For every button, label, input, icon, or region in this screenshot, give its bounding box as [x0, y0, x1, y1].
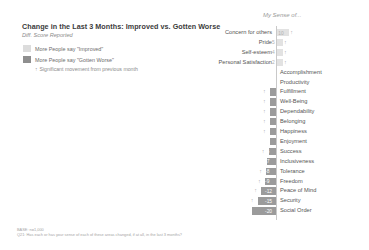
- significance-marker-icon: ↑: [263, 98, 266, 105]
- significance-marker-icon: ↑: [259, 168, 262, 175]
- bar-row: -15↑Security: [0, 196, 369, 205]
- bar-row: 10↑Concern for others: [0, 28, 369, 37]
- category-label: Security: [280, 197, 301, 204]
- category-label: Inclusiveness: [280, 158, 314, 165]
- bar-row: -7Inclusiveness: [0, 157, 369, 166]
- bar: [270, 98, 276, 105]
- bar-row: 5↑Pride: [0, 38, 369, 47]
- bar-row: -4Enjoyment: [0, 137, 369, 146]
- bar-value-label: 10: [278, 30, 283, 37]
- category-label: Accomplishment: [280, 69, 322, 76]
- category-label: Belonging: [280, 118, 305, 125]
- significance-marker-icon: ↑: [284, 39, 287, 46]
- category-label: Success: [280, 148, 302, 155]
- category-label: Pride: [259, 39, 272, 46]
- bar-row: 2↑Personal Satisfaction: [0, 58, 369, 67]
- bar-row: -3↑Belonging: [0, 117, 369, 126]
- bar-value-label: 4: [272, 49, 275, 56]
- bar-value-label: -12: [265, 188, 272, 195]
- significance-marker-icon: ↑: [284, 49, 287, 56]
- bar-row: -5↑Happiness: [0, 127, 369, 136]
- bar-row: -6↑Success: [0, 147, 369, 156]
- category-label: Productivity: [280, 79, 309, 86]
- category-label: Tolerance: [280, 168, 305, 175]
- bar-row: -2↑Fulfillment: [0, 87, 369, 96]
- category-label: Fulfillment: [280, 88, 306, 95]
- bar: [270, 108, 276, 115]
- significance-marker-icon: ↑: [262, 148, 265, 155]
- bar-value-label: -15: [265, 198, 272, 205]
- bar: [270, 128, 276, 135]
- category-label: Enjoyment: [280, 138, 307, 145]
- bar: [270, 88, 276, 95]
- bar-row: -2↑Dependability: [0, 107, 369, 116]
- bar-row: Accomplishment: [0, 68, 369, 77]
- bar-value-label: -6: [265, 148, 269, 155]
- significance-marker-icon: ↑: [254, 187, 257, 194]
- bar: [252, 207, 276, 214]
- bar-value-label: -4: [265, 138, 269, 145]
- bar: [270, 118, 276, 125]
- significance-marker-icon: ↑: [251, 197, 254, 204]
- significance-marker-icon: ↑: [290, 29, 293, 36]
- chart-container: Change in the Last 3 Months: Improved vs…: [0, 0, 369, 250]
- bar-row: 4↑Self-esteem: [0, 48, 369, 57]
- category-label: Happiness: [280, 128, 307, 135]
- category-label: Well-Being: [280, 98, 307, 105]
- bar: [269, 148, 276, 155]
- bar: [277, 59, 283, 66]
- significance-marker-icon: ↑: [263, 118, 266, 125]
- bar-row: -12↑Peace of Mind: [0, 186, 369, 195]
- bar: [270, 138, 276, 145]
- footnote-question: Q21: Has each or has your sense of each …: [17, 232, 182, 237]
- significance-marker-icon: ↑: [258, 178, 261, 185]
- significance-marker-icon: ↑: [263, 88, 266, 95]
- category-label: Peace of Mind: [280, 187, 316, 194]
- category-label: Concern for others: [225, 29, 272, 36]
- plot-header: My Sense of...: [263, 12, 301, 18]
- bar-value-label: -9: [265, 178, 269, 185]
- significance-marker-icon: ↑: [284, 59, 287, 66]
- significance-marker-icon: ↑: [263, 108, 266, 115]
- bar-value-label: -7: [265, 158, 269, 165]
- category-label: Personal Satisfaction: [219, 59, 272, 66]
- bar-row: -8↑Tolerance: [0, 167, 369, 176]
- significance-marker-icon: ↑: [263, 128, 266, 135]
- bar-value-label: 2: [272, 59, 275, 66]
- bar-value-label: 5: [272, 39, 275, 46]
- category-label: Dependability: [280, 108, 314, 115]
- bar: [277, 49, 283, 56]
- bar-row: Productivity: [0, 78, 369, 87]
- bar-row: -20Social Order: [0, 206, 369, 215]
- plot-area: 10↑Concern for others5↑Pride4↑Self-estee…: [0, 26, 369, 222]
- bar-value-label: -5: [265, 129, 269, 136]
- bar-row: -2↑Well-Being: [0, 97, 369, 106]
- bar: [277, 39, 283, 46]
- bar-row: -9↑Freedom: [0, 177, 369, 186]
- bar-value-label: -20: [265, 208, 272, 215]
- category-label: Self-esteem: [242, 49, 272, 56]
- footnote: BASE: n=1,000 Q21: Has each or has your …: [17, 227, 182, 237]
- bar-value-label: -8: [265, 168, 269, 175]
- category-label: Freedom: [280, 178, 303, 185]
- category-label: Social Order: [280, 207, 312, 214]
